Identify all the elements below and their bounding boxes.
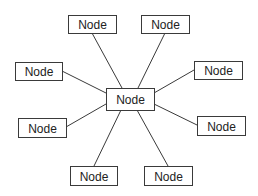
node-label: Node [151,18,180,32]
node-label: Node [154,170,183,184]
nodes: NodeNodeNodeNodeNodeNodeNodeNodeNode [16,16,246,186]
node-label: Node [25,65,54,79]
edge-center-lower-left [66,104,106,127]
edge-center-right [154,70,194,93]
node-label: Node [78,18,107,32]
node-top-left: Node [69,16,117,34]
node-center: Node [107,89,155,111]
node-left: Node [16,63,63,81]
node-lower-right: Node [198,117,246,136]
node-right: Node [195,62,243,80]
edge-center-bottom-left [94,110,121,166]
edge-center-left [62,71,106,93]
edge-center-bottom-right [137,110,168,166]
node-label: Node [207,120,236,134]
node-top-right: Node [142,16,190,34]
node-lower-left: Node [19,119,67,138]
node-bottom-left: Node [71,167,118,186]
hub-spoke-diagram: NodeNodeNodeNodeNodeNodeNodeNodeNode [0,0,258,196]
edge-center-top-left [92,33,122,88]
node-label: Node [204,64,233,78]
node-label: Node [28,122,57,136]
edge-center-lower-right [154,104,197,125]
node-label: Node [80,170,109,184]
node-label: Node [116,93,145,107]
node-bottom-right: Node [145,167,193,186]
edge-center-top-right [138,33,165,88]
